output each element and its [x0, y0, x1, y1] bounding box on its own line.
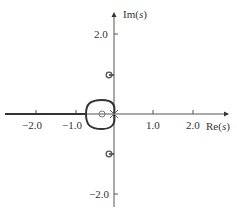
- x-tick-label: 2.0: [186, 120, 200, 131]
- x-tick-label: −2.0: [22, 120, 42, 131]
- y-label-prefix: Im(: [123, 8, 139, 20]
- y-axis-label: Im(s): [123, 9, 147, 20]
- root-locus-plot: [0, 0, 237, 214]
- y-label-suffix: ): [143, 8, 147, 20]
- y-tick-label: −2.0: [89, 189, 109, 200]
- x-tick-label: 1.0: [146, 120, 160, 131]
- x-axis-label: Re(s): [206, 121, 230, 132]
- x-label-suffix: ): [226, 120, 230, 132]
- y-tick-label: 2.0: [94, 29, 108, 40]
- x-label-prefix: Re(: [206, 120, 222, 132]
- x-axis-arrow-icon: [224, 112, 229, 117]
- x-tick-label: −1.0: [62, 120, 82, 131]
- y-axis-arrow-icon: [112, 12, 117, 17]
